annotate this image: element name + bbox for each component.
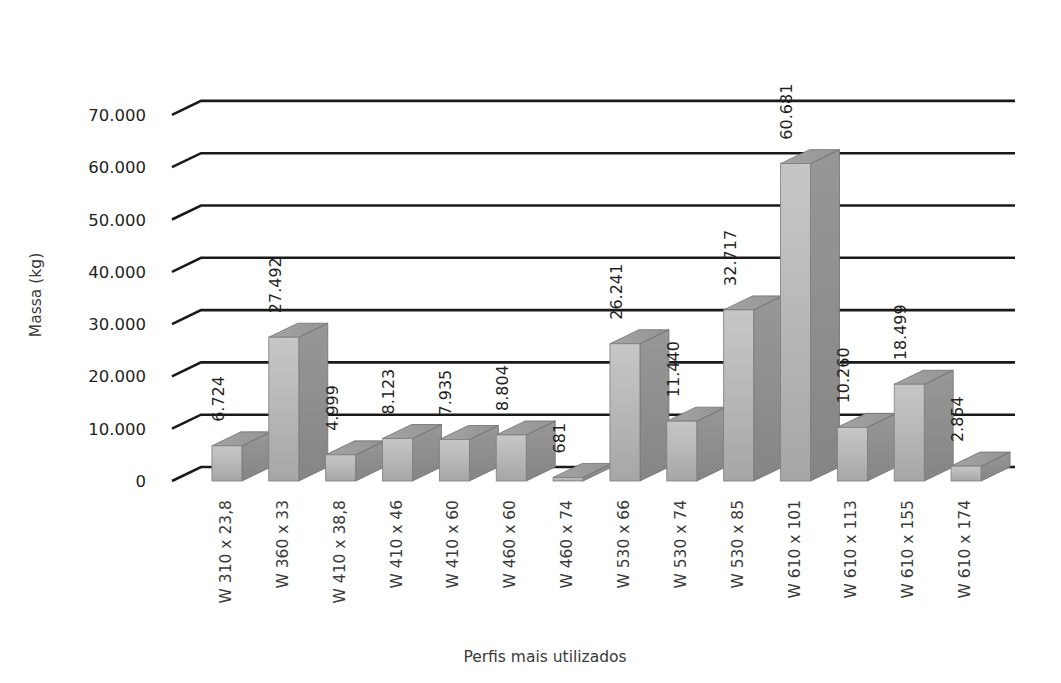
y-axis-tick-label: 0 bbox=[136, 472, 147, 491]
bar-front-face bbox=[553, 477, 583, 481]
bar-value-label: 10.260 bbox=[834, 347, 853, 403]
y-axis-tick-label: 40.000 bbox=[88, 263, 146, 282]
bar-value-label: 681 bbox=[550, 423, 569, 454]
bar-front-face bbox=[894, 384, 924, 481]
bar-value-label: 4.999 bbox=[323, 385, 342, 431]
bar-value-label: 8.123 bbox=[380, 369, 399, 415]
bar-3d bbox=[781, 150, 840, 481]
bar-3d bbox=[610, 330, 669, 481]
x-axis-category-label: W 610 x 155 bbox=[899, 500, 917, 598]
bar-side-face bbox=[754, 296, 783, 481]
x-axis-category-label: W 530 x 66 bbox=[615, 500, 633, 589]
y-axis-tick-label: 30.000 bbox=[88, 315, 146, 334]
x-axis-category-label: W 410 x 60 bbox=[444, 500, 462, 589]
bar-front-face bbox=[439, 439, 469, 481]
bar-3d bbox=[837, 413, 896, 481]
bar-front-face bbox=[326, 455, 356, 481]
x-axis-title: Perfis mais utilizados bbox=[463, 648, 626, 666]
y-axis-tick-label: 10.000 bbox=[88, 420, 146, 439]
y-axis-tick-label: 20.000 bbox=[88, 367, 146, 386]
bar-front-face bbox=[724, 310, 754, 481]
y-axis-tick-label: 60.000 bbox=[88, 158, 146, 177]
bar-3d bbox=[894, 370, 953, 481]
x-axis-category-label: W 410 x 38,8 bbox=[331, 500, 349, 603]
bar-value-label: 27.492 bbox=[266, 257, 285, 313]
bar-front-face bbox=[837, 427, 867, 481]
x-axis-category-label: W 610 x 113 bbox=[842, 500, 860, 598]
bar-value-label: 8.804 bbox=[493, 365, 512, 411]
x-axis-category-label: W 610 x 101 bbox=[786, 500, 804, 598]
x-axis-category-label: W 530 x 74 bbox=[672, 500, 690, 589]
chart-canvas: 70.00060.00050.00040.00030.00020.00010.0… bbox=[0, 0, 1061, 683]
bar-chart-figure: 70.00060.00050.00040.00030.00020.00010.0… bbox=[0, 0, 1061, 683]
x-axis-category-label: W 460 x 74 bbox=[558, 500, 576, 589]
bar-value-label: 18.499 bbox=[891, 304, 910, 360]
bar-front-face bbox=[951, 466, 981, 481]
bar-front-face bbox=[269, 337, 299, 481]
bar-front-face bbox=[496, 435, 526, 481]
bar-front-face bbox=[212, 446, 242, 481]
bar-value-label: 7.935 bbox=[436, 370, 455, 416]
bar-side-face bbox=[811, 150, 840, 481]
bar-front-face bbox=[383, 439, 413, 481]
bar-front-face bbox=[781, 164, 811, 481]
x-axis-category-label: W 530 x 85 bbox=[729, 500, 747, 589]
bar-front-face bbox=[610, 344, 640, 481]
bar-value-label: 26.241 bbox=[607, 264, 626, 320]
bar-value-label: 11.440 bbox=[664, 341, 683, 397]
x-axis-category-label: W 460 x 60 bbox=[501, 500, 519, 589]
x-axis-category-label: W 360 x 33 bbox=[274, 500, 292, 589]
x-axis-category-label: W 310 x 23,8 bbox=[217, 500, 235, 603]
x-axis-category-label: W 610 x 174 bbox=[956, 500, 974, 598]
y-axis-tick-label: 70.000 bbox=[88, 106, 146, 125]
bar-3d bbox=[724, 296, 783, 481]
bar-value-label: 60.681 bbox=[778, 84, 797, 140]
bar-3d bbox=[269, 323, 328, 481]
bar-value-label: 32.717 bbox=[721, 230, 740, 286]
bar-value-label: 2.854 bbox=[948, 396, 967, 442]
y-axis-title: Massa (kg) bbox=[27, 253, 45, 337]
bar-front-face bbox=[667, 421, 697, 481]
bar-3d bbox=[667, 407, 726, 481]
y-axis-tick-label: 50.000 bbox=[88, 211, 146, 230]
x-axis-category-label: W 410 x 46 bbox=[388, 500, 406, 589]
bar-value-label: 6.724 bbox=[209, 376, 228, 422]
